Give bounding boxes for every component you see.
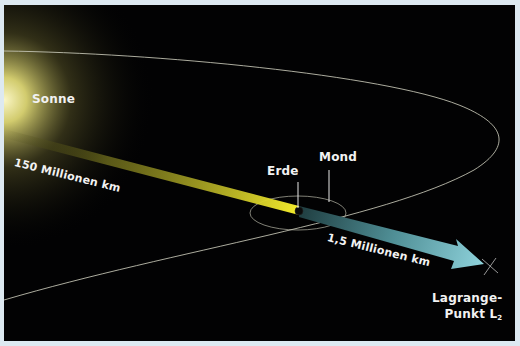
l2-marker-line-b xyxy=(484,258,496,275)
label-mond: Mond xyxy=(319,150,357,164)
label-lagrange-point: Lagrange- Punkt L2 xyxy=(432,290,502,326)
label-erde: Erde xyxy=(267,164,299,178)
earth-dot xyxy=(295,207,303,215)
label-lagrange-line2: Punkt L2 xyxy=(432,306,502,326)
label-sonne: Sonne xyxy=(32,92,75,106)
label-lagrange-line1: Lagrange- xyxy=(432,290,502,306)
diagram-panel: Sonne Erde Mond 150 Millionen km 1,5 Mil… xyxy=(4,5,515,341)
label-lagrange-line2-text: Punkt L xyxy=(445,307,498,321)
label-lagrange-subscript: 2 xyxy=(497,314,502,322)
sun-glow xyxy=(4,5,264,265)
